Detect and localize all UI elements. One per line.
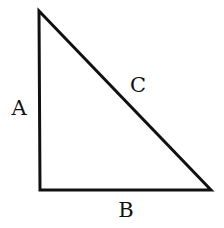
triangle-shape: [39, 11, 211, 190]
side-label-c: C: [130, 73, 146, 97]
side-label-a: A: [10, 96, 27, 120]
right-triangle-diagram: A C B: [0, 0, 224, 228]
side-label-b: B: [118, 198, 133, 222]
